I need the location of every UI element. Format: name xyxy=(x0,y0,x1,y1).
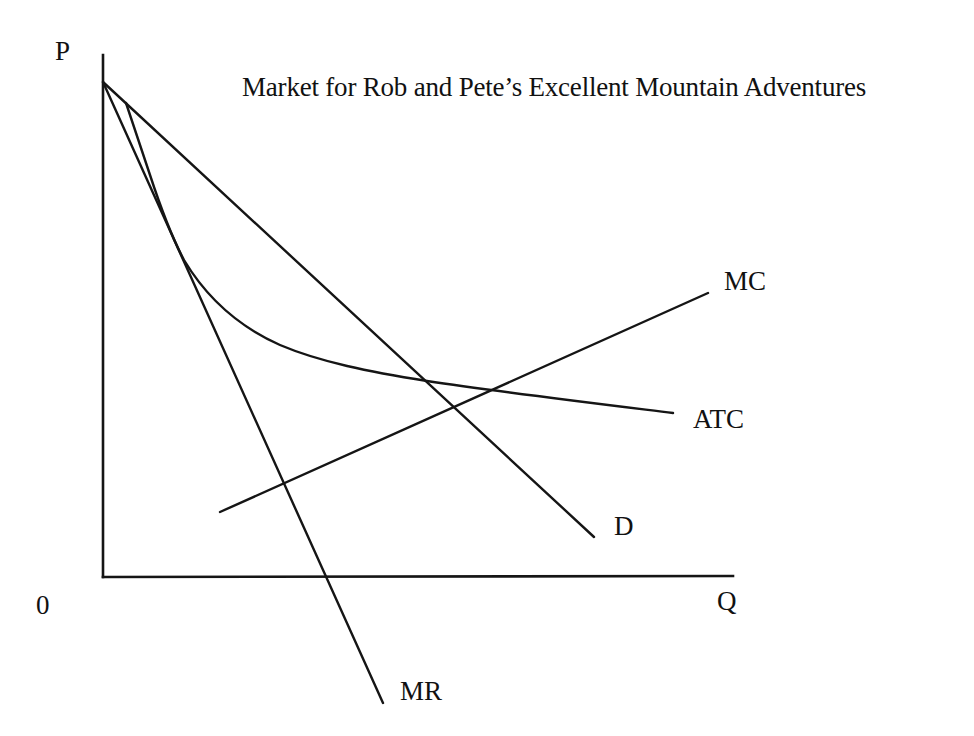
mr-label: MR xyxy=(400,678,442,705)
demand-curve xyxy=(103,82,594,537)
price-axis-label: P xyxy=(55,38,70,65)
marginal-revenue-curve xyxy=(103,82,383,703)
chart-title: Market for Rob and Pete’s Excellent Moun… xyxy=(242,74,866,101)
monopoly-market-diagram: P Market for Rob and Pete’s Excellent Mo… xyxy=(0,0,974,736)
quantity-axis xyxy=(103,576,733,577)
quantity-axis-label: Q xyxy=(717,588,737,615)
origin-label: 0 xyxy=(36,592,50,619)
mc-label: MC xyxy=(724,268,766,295)
demand-label: D xyxy=(614,513,634,540)
atc-label: ATC xyxy=(693,406,744,433)
average-total-cost-curve xyxy=(126,103,673,413)
diagram-canvas xyxy=(0,0,974,736)
marginal-cost-curve xyxy=(220,293,708,512)
